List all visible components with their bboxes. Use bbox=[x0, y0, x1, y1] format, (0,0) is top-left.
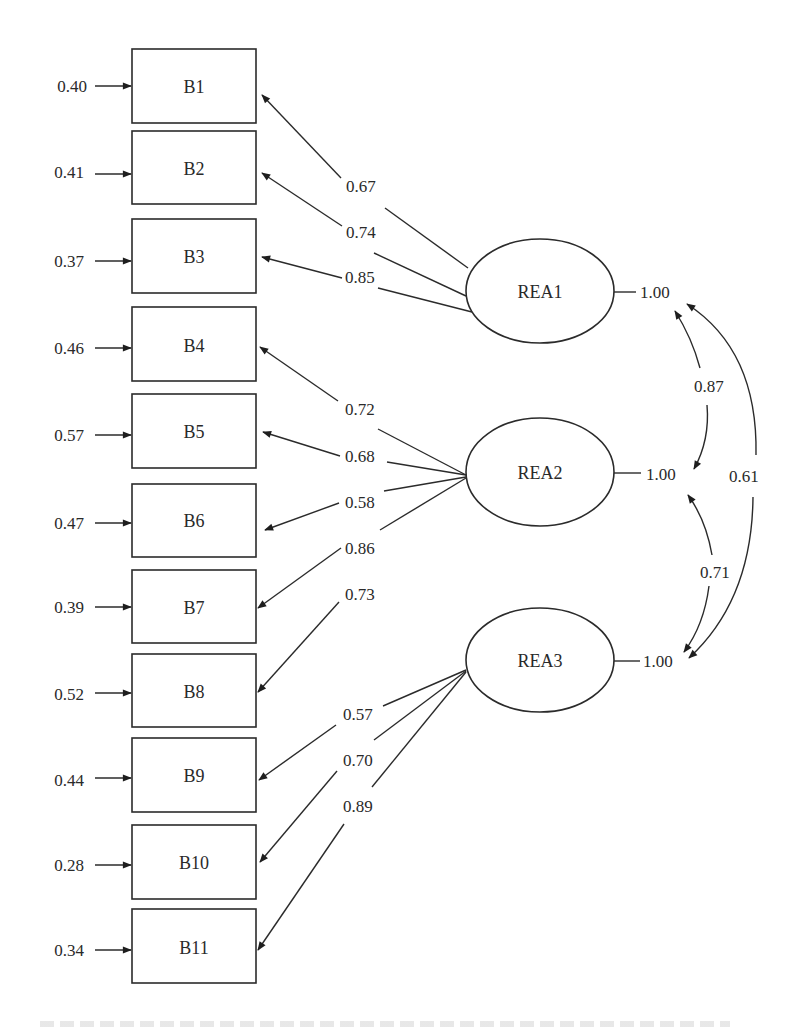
node-label: B6 bbox=[183, 511, 204, 531]
node-label: B1 bbox=[183, 77, 204, 97]
covariance-label: 0.61 bbox=[729, 467, 759, 486]
error-variance-label: 0.40 bbox=[57, 77, 87, 96]
latent-variance-label: 1.00 bbox=[643, 652, 673, 671]
observed-variable-b10: B10 0.28 bbox=[54, 825, 256, 899]
node-label: REA3 bbox=[518, 651, 563, 671]
error-variance-label: 0.44 bbox=[54, 771, 84, 790]
loading-rea1-b1: 0.67 bbox=[262, 95, 468, 268]
error-variance-label: 0.47 bbox=[54, 514, 84, 533]
observed-variable-b1: B1 0.40 bbox=[57, 49, 256, 123]
loading-label: 0.89 bbox=[343, 797, 373, 816]
error-variance-label: 0.46 bbox=[54, 339, 84, 358]
loading-label: 0.85 bbox=[345, 268, 375, 287]
observed-variable-b4: B4 0.46 bbox=[54, 307, 256, 381]
observed-variable-b2: B2 0.41 bbox=[54, 131, 256, 204]
observed-variable-b9: B9 0.44 bbox=[54, 738, 256, 812]
loading-label: 0.74 bbox=[346, 223, 376, 242]
node-label: REA1 bbox=[518, 282, 563, 302]
node-label: B8 bbox=[183, 682, 204, 702]
latent-variable-rea2: REA2 1.00 bbox=[466, 418, 676, 526]
error-variance-label: 0.37 bbox=[54, 252, 84, 271]
error-variance-label: 0.57 bbox=[54, 426, 84, 445]
loading-rea2-b8: 0.73 bbox=[258, 585, 375, 692]
loading-label: 0.68 bbox=[345, 447, 375, 466]
node-label: B5 bbox=[183, 422, 204, 442]
observed-variable-b6: B6 0.47 bbox=[54, 484, 256, 557]
figure-caption-cropped bbox=[40, 1021, 730, 1027]
loading-label: 0.73 bbox=[345, 585, 375, 604]
observed-variable-b3: B3 0.37 bbox=[54, 219, 256, 293]
error-variance-label: 0.41 bbox=[54, 163, 84, 182]
loading-label: 0.58 bbox=[345, 493, 375, 512]
node-label: B4 bbox=[183, 336, 204, 356]
observed-variable-b8: B8 0.52 bbox=[54, 654, 256, 727]
loading-label: 0.70 bbox=[343, 751, 373, 770]
error-variance-label: 0.52 bbox=[54, 685, 84, 704]
node-label: REA2 bbox=[518, 463, 563, 483]
latent-variance-label: 1.00 bbox=[640, 283, 670, 302]
covariance-rea1-rea2: 0.87 bbox=[675, 311, 724, 469]
node-label: B10 bbox=[179, 853, 209, 873]
node-label: B7 bbox=[183, 598, 204, 618]
loading-label: 0.72 bbox=[345, 400, 375, 419]
latent-variance-label: 1.00 bbox=[646, 465, 676, 484]
observed-variable-b7: B7 0.39 bbox=[54, 570, 256, 643]
loading-label: 0.86 bbox=[345, 539, 375, 558]
node-label: B9 bbox=[183, 766, 204, 786]
loading-rea3-b10: 0.70 bbox=[260, 671, 466, 862]
node-label: B3 bbox=[183, 247, 204, 267]
node-label: B2 bbox=[183, 159, 204, 179]
covariance-rea2-rea3: 0.71 bbox=[684, 495, 730, 652]
cfa-path-diagram: B1 0.40 B2 0.41 B3 0.37 B4 0.46 B5 0.57 … bbox=[0, 0, 796, 1027]
error-variance-label: 0.39 bbox=[54, 598, 84, 617]
loading-label: 0.57 bbox=[343, 705, 373, 724]
covariance-label: 0.71 bbox=[700, 563, 730, 582]
loading-rea2-b6: 0.58 bbox=[265, 477, 466, 530]
covariance-rea1-rea3: 0.61 bbox=[687, 304, 759, 658]
loading-label: 0.67 bbox=[346, 177, 376, 196]
error-variance-label: 0.34 bbox=[54, 941, 84, 960]
latent-variable-rea3: REA3 1.00 bbox=[466, 608, 673, 712]
loading-rea2-b5: 0.68 bbox=[263, 432, 466, 475]
observed-variable-b11: B11 0.34 bbox=[54, 909, 256, 983]
latent-variable-rea1: REA1 1.00 bbox=[466, 239, 670, 343]
observed-variable-b5: B5 0.57 bbox=[54, 394, 256, 468]
node-label: B11 bbox=[179, 938, 208, 958]
covariance-label: 0.87 bbox=[694, 377, 724, 396]
error-variance-label: 0.28 bbox=[54, 856, 84, 875]
